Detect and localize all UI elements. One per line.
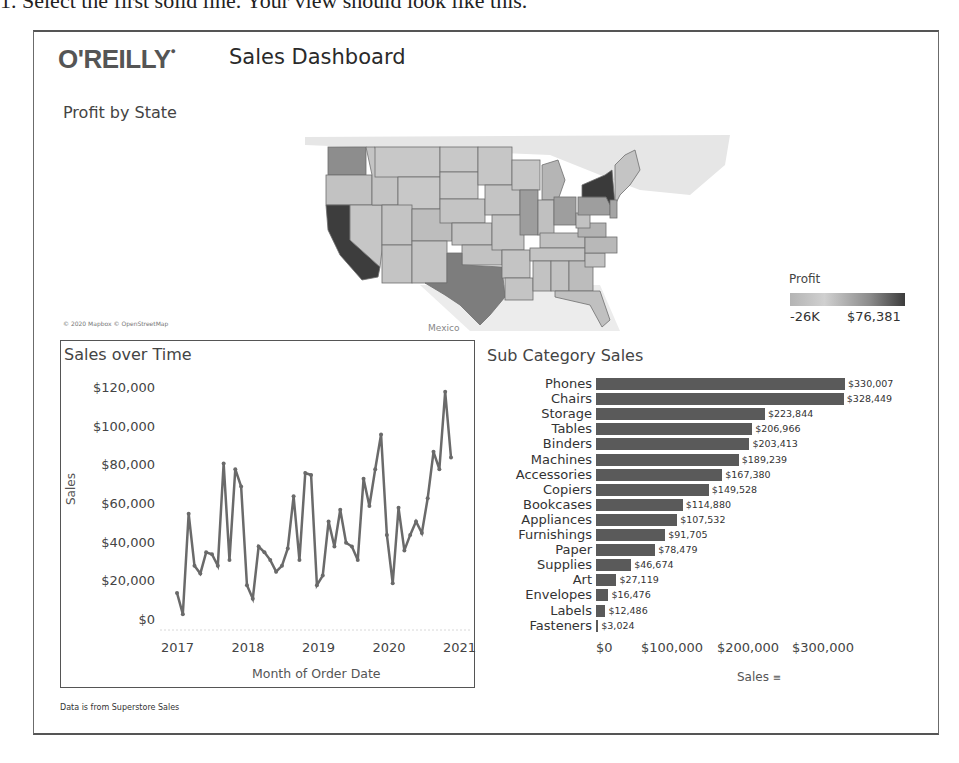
bar-category-label: Storage (482, 407, 592, 421)
bar-machines[interactable] (596, 454, 739, 466)
line-y-tick: $20,000 (55, 573, 155, 588)
bar-x-axis-title-text: Sales (737, 670, 769, 684)
bar-x-tick: $0 (596, 640, 613, 655)
bar-fasteners[interactable] (596, 620, 598, 632)
bar-value-label: $107,532 (680, 514, 725, 526)
bar-category-label: Phones (482, 377, 592, 391)
bar-x-tick: $200,000 (717, 640, 779, 655)
bar-binders[interactable] (596, 438, 749, 450)
bar-bookcases[interactable] (596, 499, 683, 511)
bar-accessories[interactable] (596, 469, 722, 481)
bar-value-label: $330,007 (848, 378, 893, 390)
bar-appliances[interactable] (596, 514, 677, 526)
bar-value-label: $167,380 (725, 469, 770, 481)
bar-value-label: $114,880 (686, 499, 731, 511)
bar-value-label: $3,024 (601, 620, 634, 632)
bar-x-tick: $300,000 (792, 640, 854, 655)
bar-chairs[interactable] (596, 393, 844, 405)
bar-value-label: $46,674 (634, 559, 673, 571)
bar-value-label: $189,239 (742, 454, 787, 466)
map-title: Profit by State (63, 103, 177, 122)
bar-phones[interactable] (596, 378, 845, 390)
profit-legend-gradient (790, 293, 905, 306)
bar-chart-title: Sub Category Sales (487, 346, 643, 365)
bar-category-label: Chairs (482, 392, 592, 406)
bar-supplies[interactable] (596, 559, 631, 571)
line-x-axis-title: Month of Order Date (252, 666, 381, 681)
line-y-tick: $80,000 (55, 457, 155, 472)
footer-note: Data is from Superstore Sales (60, 703, 179, 712)
sort-descending-icon[interactable]: ≡ (773, 672, 781, 683)
bar-copiers[interactable] (596, 484, 709, 496)
bar-value-label: $16,476 (611, 589, 650, 601)
bar-category-label: Paper (482, 543, 592, 557)
line-x-tick: 2017 (161, 640, 194, 655)
bar-value-label: $149,528 (712, 484, 757, 496)
line-y-axis-title: Sales (64, 473, 78, 505)
bar-art[interactable] (596, 574, 616, 586)
bar-category-label: Envelopes (482, 588, 592, 602)
logo-text: O'REILLY (58, 44, 170, 74)
bar-value-label: $78,479 (658, 544, 697, 556)
bar-category-label: Tables (482, 422, 592, 436)
dashboard-title: Sales Dashboard (229, 45, 406, 69)
registered-mark-icon: ● (170, 46, 175, 56)
bar-value-label: $27,119 (619, 574, 658, 586)
line-chart-title: Sales over Time (64, 345, 192, 364)
instruction-caption: 1. Select the first solid line. Your vie… (0, 0, 527, 14)
map-attribution: © 2020 Mapbox © OpenStreetMap (63, 320, 168, 327)
bar-x-tick: $100,000 (641, 640, 703, 655)
line-y-tick: $120,000 (55, 380, 155, 395)
profit-legend-min: -26K (790, 309, 820, 324)
bar-category-label: Fasteners (482, 619, 592, 633)
bar-value-label: $12,486 (608, 605, 647, 617)
bar-category-label: Accessories (482, 468, 592, 482)
bar-value-label: $223,844 (768, 408, 813, 420)
bar-category-label: Supplies (482, 558, 592, 572)
bar-category-label: Art (482, 573, 592, 587)
mexico-label: Mexico (428, 323, 460, 331)
bar-value-label: $328,449 (847, 393, 892, 405)
bar-category-label: Copiers (482, 483, 592, 497)
line-x-tick: 2018 (232, 640, 265, 655)
bar-category-label: Appliances (482, 513, 592, 527)
bar-x-axis-title: Sales ≡ (737, 670, 781, 684)
profit-legend-title: Profit (789, 272, 820, 286)
line-x-tick: 2021 (443, 640, 476, 655)
bar-furnishings[interactable] (596, 529, 665, 541)
line-y-tick: $40,000 (55, 535, 155, 550)
bar-tables[interactable] (596, 423, 752, 435)
profit-legend-max: $76,381 (847, 309, 901, 324)
bar-value-label: $203,413 (752, 438, 797, 450)
bar-envelopes[interactable] (596, 589, 608, 601)
us-states[interactable] (326, 147, 640, 327)
bar-category-label: Bookcases (482, 498, 592, 512)
bar-paper[interactable] (596, 544, 655, 556)
bar-labels[interactable] (596, 605, 605, 617)
bar-value-label: $91,705 (668, 529, 707, 541)
bar-category-label: Machines (482, 453, 592, 467)
oreilly-logo: O'REILLY● (58, 44, 175, 75)
bar-value-label: $206,966 (755, 423, 800, 435)
bar-storage[interactable] (596, 408, 765, 420)
line-y-tick: $0 (55, 612, 155, 627)
line-y-tick: $100,000 (55, 419, 155, 434)
bar-category-label: Binders (482, 437, 592, 451)
bar-category-label: Labels (482, 604, 592, 618)
bar-category-label: Furnishings (482, 528, 592, 542)
line-x-tick: 2020 (373, 640, 406, 655)
line-x-tick: 2019 (302, 640, 335, 655)
